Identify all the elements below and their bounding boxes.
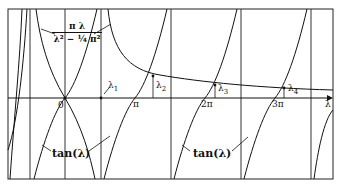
origin-label: 0	[58, 101, 64, 110]
axis-label: λ	[325, 100, 331, 109]
root-markers	[63, 75, 285, 100]
root-label-1: λ1	[108, 81, 118, 93]
tan-label-right: tan(λ)	[193, 148, 231, 159]
root-label-2: λ2	[156, 81, 166, 93]
tick-2pi: 2π	[201, 100, 213, 109]
rational-function-label: π λ λ² − ¼ π²	[52, 21, 102, 44]
root-label-4: λ4	[288, 84, 298, 96]
tick-pi: π	[133, 100, 139, 109]
rational-denominator: λ² − ¼ π²	[52, 33, 102, 44]
tan-label-left: tan(λ)	[52, 148, 90, 159]
root-label-3: λ3	[218, 84, 228, 96]
tick-3pi: 3π	[272, 100, 284, 109]
rational-numerator: π λ	[52, 21, 102, 33]
